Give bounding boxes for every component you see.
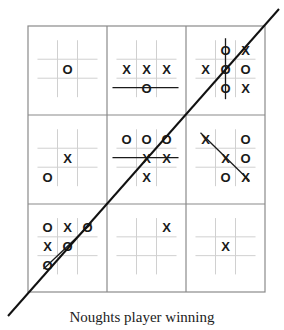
- nought-mark: O: [240, 62, 250, 77]
- nought-mark: O: [42, 220, 52, 235]
- nought-mark: O: [42, 170, 52, 185]
- cross-mark: X: [122, 62, 131, 77]
- nought-mark: O: [62, 62, 72, 77]
- cross-mark: X: [241, 81, 250, 96]
- nought-mark: O: [240, 132, 250, 147]
- cross-mark: X: [162, 62, 171, 77]
- cross-mark: X: [201, 62, 210, 77]
- cross-mark: X: [43, 239, 52, 254]
- figure-caption: Noughts player winning: [0, 309, 284, 326]
- nought-mark: O: [220, 170, 230, 185]
- cross-mark: X: [63, 151, 72, 166]
- ultimate-tic-tac-toe-diagram: OXXXOOXXOOOXXOOOOXXXXOXOOXOXOXOOXX Nough…: [0, 0, 284, 330]
- meta-win-line: [8, 9, 279, 316]
- cross-mark: X: [162, 220, 171, 235]
- nought-mark: O: [141, 132, 151, 147]
- nought-mark: O: [240, 151, 250, 166]
- meta-board: OXXXOOXXOOOXXOOOOXXXXOXOOXOXOXOOXX: [0, 0, 284, 330]
- cross-mark: X: [63, 220, 72, 235]
- cross-mark: X: [142, 62, 151, 77]
- cross-mark: X: [142, 170, 151, 185]
- cross-mark: X: [221, 239, 230, 254]
- nought-mark: O: [121, 132, 131, 147]
